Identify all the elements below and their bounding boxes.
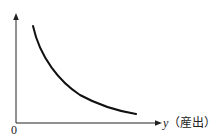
x-axis-arrow-icon bbox=[155, 120, 162, 126]
x-axis-paren-label: （産出） bbox=[168, 116, 211, 130]
origin-label: 0 bbox=[11, 124, 17, 136]
x-axis-label: y（産出） bbox=[163, 116, 211, 130]
x-axis bbox=[16, 120, 162, 126]
curve-line bbox=[33, 26, 136, 114]
y-axis-arrow-icon bbox=[13, 13, 19, 20]
y-axis bbox=[13, 13, 19, 123]
